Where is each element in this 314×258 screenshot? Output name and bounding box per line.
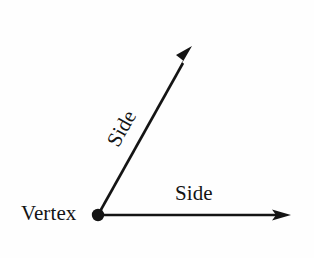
side-label-horizontal: Side [175, 183, 213, 204]
angle-figure: Vertex Side Side [0, 0, 314, 258]
diagonal-ray-arrowhead [176, 46, 192, 69]
vertex-label: Vertex [21, 203, 76, 224]
vertex-dot [92, 209, 104, 221]
caption-bleed-text [14, 252, 194, 258]
